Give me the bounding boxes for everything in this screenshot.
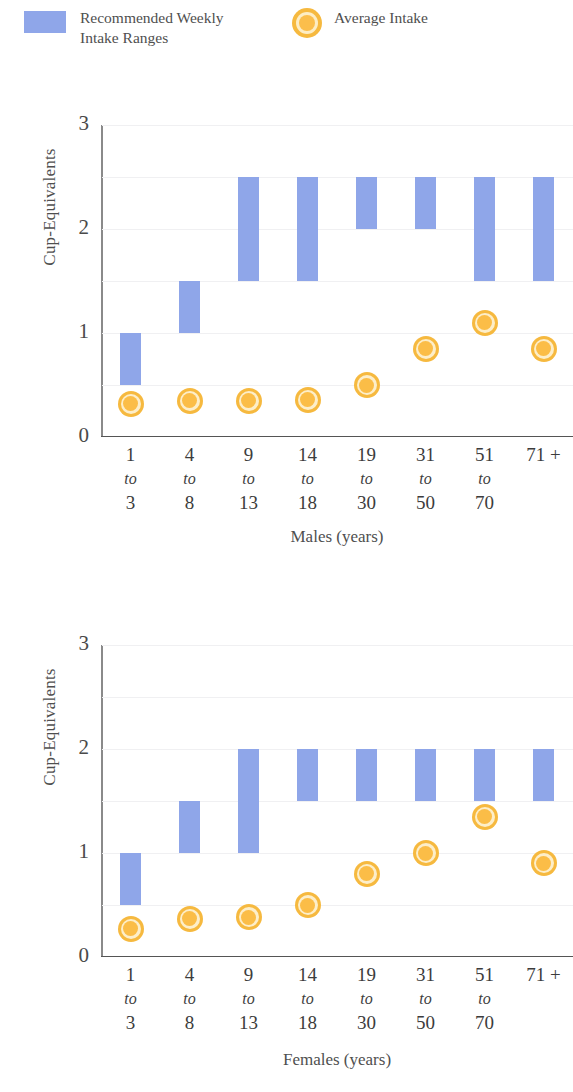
y-axis-tick-label: 3 (49, 631, 89, 656)
range-bar (297, 177, 318, 281)
x-axis-tick-label: 4to8 (160, 443, 220, 515)
average-intake-marker (118, 916, 144, 942)
average-intake-marker (472, 310, 498, 336)
circle-marker-icon (292, 8, 322, 38)
x-axis-line (101, 436, 573, 438)
range-bar (120, 333, 141, 385)
gridline (102, 905, 573, 906)
average-intake-marker (413, 840, 439, 866)
average-intake-marker (177, 906, 203, 932)
chart-legend: Recommended Weekly Intake Ranges Average… (0, 0, 573, 92)
x-axis-tick-label: 9to13 (219, 443, 279, 515)
x-axis-title-females: Females (years) (101, 1050, 573, 1070)
gridline (102, 697, 573, 698)
x-axis-title-males: Males (years) (101, 527, 573, 547)
gridline (102, 801, 573, 802)
average-intake-marker (531, 336, 557, 362)
average-intake-marker (236, 904, 262, 930)
range-bar (356, 749, 377, 801)
legend-item-recommended-range: Recommended Weekly Intake Ranges (24, 8, 224, 48)
gridline (102, 645, 573, 646)
x-axis-tick-label: 1to3 (101, 443, 161, 515)
range-bar (474, 749, 495, 801)
range-bar (415, 177, 436, 229)
legend-item-average-intake: Average Intake (292, 8, 428, 38)
y-axis-tick-label: 2 (49, 735, 89, 760)
average-intake-marker (354, 372, 380, 398)
range-bar (474, 177, 495, 281)
x-axis-tick-label: 19to30 (337, 443, 397, 515)
range-bar (179, 281, 200, 333)
gridline (102, 281, 573, 282)
range-bar (238, 177, 259, 281)
x-axis-tick-label: 71 + (514, 443, 573, 467)
average-intake-marker (531, 850, 557, 876)
chart-panel-females: Cup-Equivalents 0123 1to34to89to1314to18… (0, 612, 573, 1092)
plot-area-males: 0123 1to34to89to1314to1819to3031to5051to… (101, 125, 573, 437)
x-axis-line (101, 956, 573, 958)
y-axis-tick-label: 1 (49, 319, 89, 344)
average-intake-marker (413, 336, 439, 362)
gridline (102, 749, 573, 750)
y-axis-tick-label: 0 (49, 423, 89, 448)
range-bar (179, 801, 200, 853)
range-bar (533, 177, 554, 281)
gridline (102, 177, 573, 178)
x-axis-tick-label: 14to18 (278, 443, 338, 515)
x-axis-tick-label: 9to13 (219, 963, 279, 1035)
x-axis-tick-label: 51to70 (455, 963, 515, 1035)
gridline (102, 229, 573, 230)
bar-swatch-icon (24, 11, 66, 33)
x-axis-tick-label: 1to3 (101, 963, 161, 1035)
x-axis-tick-label: 31to50 (396, 443, 456, 515)
average-intake-marker (354, 861, 380, 887)
range-bar (533, 749, 554, 801)
gridline (102, 125, 573, 126)
range-bar (356, 177, 377, 229)
range-bar (238, 749, 259, 853)
gridline (102, 385, 573, 386)
gridline (102, 333, 573, 334)
chart-panel-males: Cup-Equivalents 0123 1to34to89to1314to18… (0, 92, 573, 612)
average-intake-marker (236, 388, 262, 414)
range-bar (297, 749, 318, 801)
x-axis-tick-label: 4to8 (160, 963, 220, 1035)
average-intake-marker (295, 892, 321, 918)
average-intake-marker (472, 804, 498, 830)
legend-label-average-intake: Average Intake (334, 8, 428, 28)
average-intake-marker (177, 388, 203, 414)
x-axis-tick-label: 19to30 (337, 963, 397, 1035)
x-axis-tick-label: 51to70 (455, 443, 515, 515)
gridline (102, 853, 573, 854)
y-axis-tick-label: 3 (49, 111, 89, 136)
average-intake-marker (118, 391, 144, 417)
legend-label-recommended-range: Recommended Weekly Intake Ranges (80, 8, 224, 48)
range-bar (415, 749, 436, 801)
average-intake-marker (295, 387, 321, 413)
plot-area-females: 0123 1to34to89to1314to1819to3031to5051to… (101, 645, 573, 957)
x-axis-tick-label: 31to50 (396, 963, 456, 1035)
range-bar (120, 853, 141, 905)
x-axis-tick-label: 71 + (514, 963, 573, 987)
y-axis-tick-label: 1 (49, 839, 89, 864)
x-axis-tick-label: 14to18 (278, 963, 338, 1035)
y-axis-tick-label: 0 (49, 943, 89, 968)
y-axis-tick-label: 2 (49, 215, 89, 240)
